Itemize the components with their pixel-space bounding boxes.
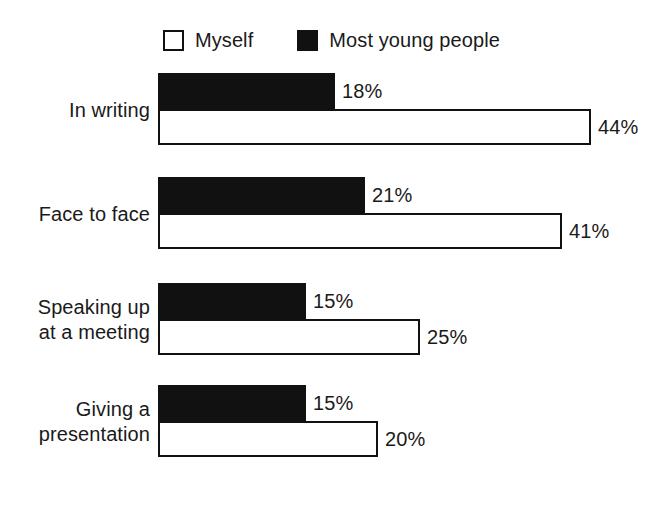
bar-group-in-writing: In writing 18% 44% (0, 72, 663, 148)
bar-row-most-young-people: 21% (158, 177, 412, 213)
bar-pair: 15% 20% (158, 384, 663, 460)
bar-value-most-young-people: 15% (313, 393, 353, 413)
category-label-line-1: Giving a (76, 397, 150, 422)
bar-row-myself: 41% (158, 213, 609, 249)
plot-area: In writing 18% 44% Face to face (0, 72, 663, 502)
bar-chart: Myself Most young people In writing 18% … (0, 0, 663, 506)
bar-most-young-people (158, 283, 306, 319)
legend-item-most-young-people: Most young people (297, 30, 500, 51)
category-label-speaking-up-at-a-meeting: Speaking up at a meeting (0, 282, 150, 358)
bar-row-most-young-people: 18% (158, 73, 382, 109)
category-label-line-2: at a meeting (39, 320, 150, 345)
bar-myself (158, 109, 591, 145)
open-square-swatch-icon (163, 30, 184, 51)
bar-most-young-people (158, 177, 365, 213)
legend-label-most-young-people: Most young people (329, 30, 500, 50)
legend-item-myself: Myself (163, 30, 253, 51)
bar-pair: 15% 25% (158, 282, 663, 358)
bar-myself (158, 213, 562, 249)
bar-value-most-young-people: 18% (342, 81, 382, 101)
bar-pair: 18% 44% (158, 72, 663, 148)
chart-legend: Myself Most young people (0, 20, 663, 60)
bar-value-most-young-people: 15% (313, 291, 353, 311)
category-label-face-to-face: Face to face (0, 176, 150, 252)
category-label-giving-a-presentation: Giving a presentation (0, 384, 150, 460)
bar-row-myself: 44% (158, 109, 638, 145)
bar-value-myself: 44% (598, 117, 638, 137)
bar-row-most-young-people: 15% (158, 283, 353, 319)
category-label-line-1: In writing (69, 98, 150, 123)
bar-group-giving-a-presentation: Giving a presentation 15% 20% (0, 384, 663, 460)
bar-pair: 21% 41% (158, 176, 663, 252)
bar-row-myself: 25% (158, 319, 467, 355)
category-label-line-1: Speaking up (38, 295, 150, 320)
filled-square-swatch-icon (297, 30, 318, 51)
category-label-line-1: Face to face (39, 202, 150, 227)
bar-myself (158, 319, 420, 355)
category-label-line-2: presentation (39, 422, 150, 447)
bar-row-most-young-people: 15% (158, 385, 353, 421)
bar-value-myself: 25% (427, 327, 467, 347)
bar-value-myself: 20% (385, 429, 425, 449)
category-label-in-writing: In writing (0, 72, 150, 148)
legend-label-myself: Myself (195, 30, 253, 50)
bar-value-myself: 41% (569, 221, 609, 241)
bar-group-face-to-face: Face to face 21% 41% (0, 176, 663, 252)
bar-row-myself: 20% (158, 421, 425, 457)
bar-most-young-people (158, 73, 335, 109)
bar-group-speaking-up-at-a-meeting: Speaking up at a meeting 15% 25% (0, 282, 663, 358)
bar-value-most-young-people: 21% (372, 185, 412, 205)
bar-most-young-people (158, 385, 306, 421)
bar-myself (158, 421, 378, 457)
